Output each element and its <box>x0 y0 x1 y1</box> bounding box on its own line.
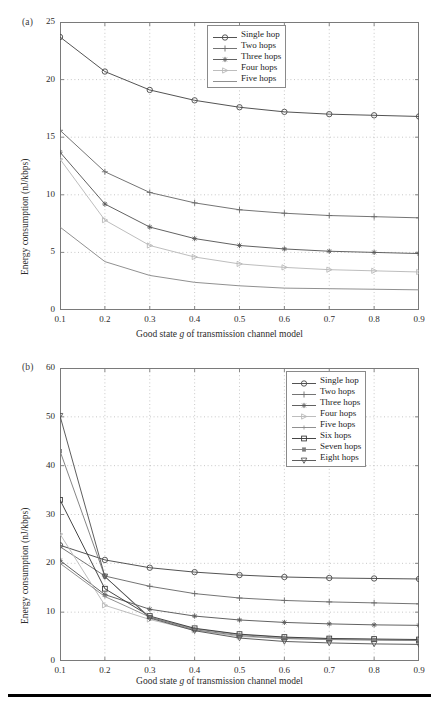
x-tick-label: 0.2 <box>90 314 120 324</box>
legend-marker-icon <box>212 29 238 40</box>
legend-marker-icon <box>291 452 317 463</box>
y-tick-label: 20 <box>29 74 55 84</box>
legend-label: Three hops <box>238 51 281 62</box>
y-tick-label: 10 <box>29 606 55 616</box>
x-tick-label: 0.7 <box>314 665 344 675</box>
legend-label: Single hop <box>238 29 280 40</box>
y-tick-label: 30 <box>29 509 55 519</box>
figure-container: (a) Energy consumption (nJ/kbps) Good st… <box>0 0 439 707</box>
legend-marker-icon <box>291 397 317 408</box>
y-tick-label: 60 <box>29 362 55 372</box>
x-tick-label: 0.2 <box>90 665 120 675</box>
y-tick-label: 20 <box>29 557 55 567</box>
legend-label: Seven hops <box>317 441 361 452</box>
legend-marker-icon <box>212 51 238 62</box>
legend-label: Five hops <box>238 73 276 84</box>
legend-marker-icon <box>291 375 317 386</box>
legend-label: Five hops <box>317 419 355 430</box>
y-tick-label: 40 <box>29 460 55 470</box>
legend-item[interactable]: Seven hops <box>291 441 361 452</box>
y-tick-label: 5 <box>29 246 55 256</box>
legend-item[interactable]: Five hops <box>212 73 281 84</box>
chart-panel-b: (b) Energy consumption (nJ/kbps) Good st… <box>0 352 439 682</box>
legend-marker-icon <box>212 62 238 73</box>
x-tick-label: 0.1 <box>45 314 75 324</box>
legend-label: Two hops <box>238 40 276 51</box>
legend-marker-icon <box>291 441 317 452</box>
y-tick-label: 0 <box>29 655 55 665</box>
legend-marker-icon <box>212 73 238 84</box>
legend-label: Four hops <box>317 408 356 419</box>
x-tick-label: 0.3 <box>135 665 165 675</box>
legend-marker-icon <box>291 430 317 441</box>
legend-b: Single hopTwo hopsThree hopsFour hopsFiv… <box>286 371 366 467</box>
series-five-hops <box>60 227 419 290</box>
legend-item[interactable]: Two hops <box>212 40 281 51</box>
x-tick-label: 0.9 <box>404 665 434 675</box>
chart-panel-a: (a) Energy consumption (nJ/kbps) Good st… <box>0 0 439 352</box>
x-tick-label: 0.8 <box>359 314 389 324</box>
x-axis-label-b-post: of transmission channel model <box>184 676 303 686</box>
legend-item[interactable]: Five hops <box>291 419 361 430</box>
y-tick-label: 50 <box>29 411 55 421</box>
legend-label: Single hop <box>317 375 359 386</box>
footer-rule <box>8 694 431 697</box>
legend-label: Eight hops <box>317 452 359 463</box>
legend-item[interactable]: Single hop <box>212 29 281 40</box>
legend-item[interactable]: Four hops <box>212 62 281 73</box>
x-tick-label: 0.4 <box>180 314 210 324</box>
legend-label: Six hops <box>317 430 351 441</box>
x-axis-label-a-post: of transmission channel model <box>184 329 303 339</box>
x-tick-label: 0.1 <box>45 665 75 675</box>
legend-item[interactable]: Three hops <box>291 397 361 408</box>
legend-item[interactable]: Six hops <box>291 430 361 441</box>
x-tick-label: 0.7 <box>314 314 344 324</box>
legend-item[interactable]: Four hops <box>291 408 361 419</box>
x-tick-label: 0.5 <box>225 314 255 324</box>
x-tick-label: 0.6 <box>269 314 299 324</box>
y-tick-label: 15 <box>29 131 55 141</box>
legend-marker-icon <box>291 419 317 430</box>
y-tick-label: 0 <box>29 304 55 314</box>
legend-marker-icon <box>291 386 317 397</box>
x-tick-label: 0.3 <box>135 314 165 324</box>
y-tick-label: 25 <box>29 16 55 26</box>
legend-label: Two hops <box>317 386 355 397</box>
legend-marker-icon <box>291 408 317 419</box>
y-tick-label: 10 <box>29 189 55 199</box>
x-tick-label: 0.4 <box>180 665 210 675</box>
x-tick-label: 0.5 <box>225 665 255 675</box>
y-axis-label-a: Energy consumption (nJ/kbps) <box>20 159 30 275</box>
legend-a: Single hopTwo hopsThree hopsFour hopsFiv… <box>207 25 286 88</box>
x-axis-label-a-pre: Good state <box>136 329 179 339</box>
x-tick-label: 0.6 <box>269 665 299 675</box>
legend-item[interactable]: Single hop <box>291 375 361 386</box>
x-axis-label-b-pre: Good state <box>136 676 179 686</box>
series-three-hops <box>60 558 419 628</box>
legend-item[interactable]: Two hops <box>291 386 361 397</box>
x-axis-label-a: Good state g of transmission channel mod… <box>0 329 439 339</box>
legend-item[interactable]: Three hops <box>212 51 281 62</box>
legend-marker-icon <box>212 40 238 51</box>
legend-item[interactable]: Eight hops <box>291 452 361 463</box>
x-axis-label-b: Good state g of transmission channel mod… <box>0 676 439 686</box>
x-tick-label: 0.9 <box>404 314 434 324</box>
x-tick-label: 0.8 <box>359 665 389 675</box>
legend-label: Three hops <box>317 397 360 408</box>
legend-label: Four hops <box>238 62 277 73</box>
